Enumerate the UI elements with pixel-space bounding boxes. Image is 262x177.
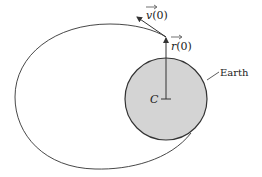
earth-label: Earth (220, 67, 249, 78)
svg-text:r(0): r(0) (171, 40, 192, 53)
velocity-label: v(0) (146, 5, 168, 22)
orbit-diagram: v(0) r(0) C Earth (0, 0, 262, 177)
position-label: r(0) (171, 35, 192, 53)
center-label: C (150, 93, 159, 106)
earth-leader-line (207, 72, 219, 80)
svg-text:v(0): v(0) (146, 9, 168, 22)
